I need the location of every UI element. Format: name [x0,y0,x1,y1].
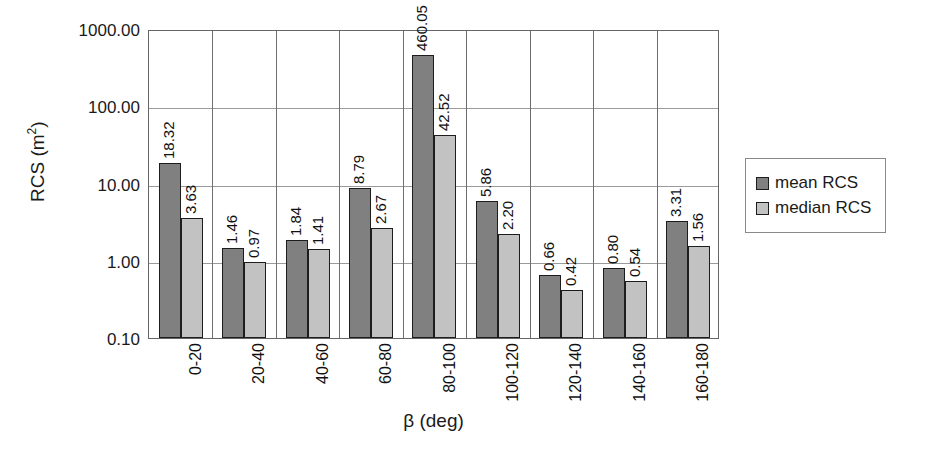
x-tick-label: 20-40 [251,343,267,384]
bar-value-label: 18.32 [161,122,176,160]
bar-median-rcs[interactable] [498,234,520,338]
bar-median-rcs[interactable] [371,228,393,338]
y-axis-title-superscript: 2 [25,128,39,135]
bar-mean-rcs[interactable] [539,275,561,338]
bar-median-rcs[interactable] [244,262,266,338]
bar-value-label: 460.05 [414,5,429,51]
bar-value-label: 8.79 [351,155,366,184]
y-axis-tick-labels: 1000.00100.0010.001.000.10 [48,0,140,453]
bar-median-rcs[interactable] [561,290,583,338]
bar-mean-rcs[interactable] [349,188,371,338]
bar-median-rcs[interactable] [181,218,203,339]
x-tick-label: 80-100 [442,343,458,393]
bar-median-rcs[interactable] [625,281,647,338]
y-axis-title: RCS (m2) [25,87,48,237]
bar-group: 0.660.42 [530,31,593,338]
x-tick-label: 120-140 [568,343,584,402]
bar-group: 8.792.67 [339,31,402,338]
bar-group: 0.800.54 [593,31,656,338]
legend-swatch-icon [756,177,769,190]
bar-median-rcs[interactable] [688,246,710,338]
x-axis-title: β (deg) [148,410,719,432]
bar-mean-rcs[interactable] [603,268,625,338]
bar-group: 3.311.56 [657,31,720,338]
x-tick-label: 40-60 [315,343,331,384]
x-tick-label: 160-180 [695,343,711,402]
bar-value-label: 1.41 [310,216,325,245]
bar-value-label: 0.97 [246,229,261,258]
x-tick-label: 60-80 [378,343,394,384]
bar-group: 460.0542.52 [403,31,466,338]
plot-area: 18.323.631.460.971.841.418.792.67460.054… [148,30,719,339]
y-tick-label: 1.00 [48,253,140,270]
bar-value-label: 2.20 [500,201,515,230]
bar-mean-rcs[interactable] [476,201,498,338]
x-tick-label: 0-20 [188,343,204,375]
bar-value-label: 1.46 [224,215,239,244]
legend-item[interactable]: mean RCS [756,173,871,193]
chart-legend: mean RCSmedian RCS [745,158,886,233]
bar-value-label: 5.86 [478,168,493,197]
bar-median-rcs[interactable] [434,135,456,338]
bar-group: 1.460.97 [212,31,275,338]
y-axis-title-close: ) [27,121,48,127]
bar-value-label: 3.63 [183,184,198,213]
y-tick-label: 0.10 [48,331,140,348]
x-axis-tick-labels: 0-2020-4040-6060-8080-100100-120120-1401… [148,343,719,413]
legend-item-label: mean RCS [775,173,858,193]
y-tick-label: 100.00 [48,99,140,116]
x-tick-label: 140-160 [632,343,648,402]
bar-value-label: 1.84 [288,207,303,236]
bar-median-rcs[interactable] [308,249,330,338]
bar-value-label: 2.67 [373,195,388,224]
bar-group: 5.862.20 [466,31,529,338]
bar-group: 18.323.63 [149,31,212,338]
bar-groups: 18.323.631.460.971.841.418.792.67460.054… [149,31,718,338]
y-axis-title-text: RCS (m [27,134,48,202]
bar-value-label: 42.52 [436,93,451,131]
bar-value-label: 0.42 [563,257,578,286]
bar-mean-rcs[interactable] [222,248,244,338]
bar-value-label: 0.66 [541,242,556,271]
legend-item[interactable]: median RCS [756,198,871,218]
bar-value-label: 0.80 [605,235,620,264]
bar-mean-rcs[interactable] [412,55,434,338]
bar-mean-rcs[interactable] [286,240,308,338]
y-tick-label: 1000.00 [48,22,140,39]
bar-mean-rcs[interactable] [159,163,181,338]
bar-group: 1.841.41 [276,31,339,338]
legend-item-label: median RCS [775,198,871,218]
x-tick-label: 100-120 [505,343,521,402]
bar-value-label: 3.31 [668,187,683,216]
bar-value-label: 0.54 [627,248,642,277]
legend-swatch-icon [756,202,769,215]
y-tick-label: 10.00 [48,176,140,193]
bar-value-label: 1.56 [690,213,705,242]
bar-mean-rcs[interactable] [666,221,688,338]
rcs-bar-chart: RCS (m2) 1000.00100.0010.001.000.10 18.3… [0,0,932,453]
